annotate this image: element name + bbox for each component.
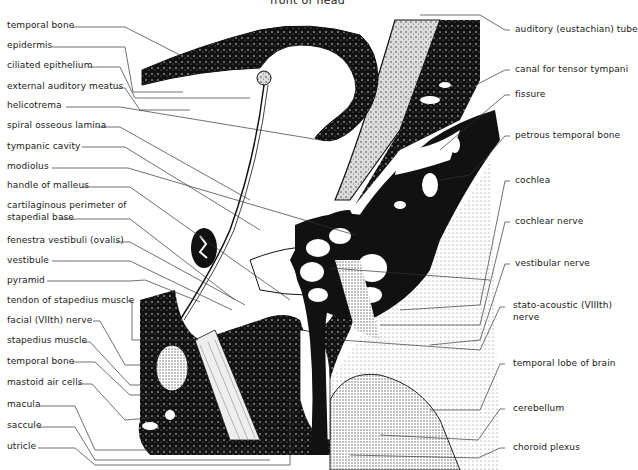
tympanic-membrane bbox=[180, 85, 264, 320]
temporal-bone-arch bbox=[142, 26, 378, 141]
malleus-section bbox=[191, 228, 217, 268]
